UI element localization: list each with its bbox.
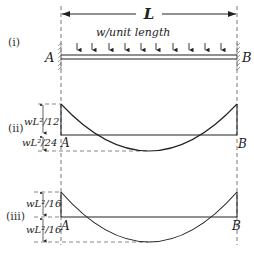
part-iii-moment-diagram: (iii) wL²/16 wL²/16 A B: [6, 192, 241, 242]
part-ii-top-value: wL²/12: [24, 116, 59, 127]
part-ii-a-label: A: [60, 136, 70, 150]
beam-moment-diagram: L (i) w/unit length A B: [0, 0, 254, 257]
span-dimension: L: [62, 5, 236, 23]
support-b-label: B: [241, 50, 252, 65]
part-iii-label: (iii): [6, 210, 25, 223]
right-fixed-support-icon: [237, 43, 240, 70]
support-a-label: A: [44, 50, 54, 65]
part-ii-b-label: B: [237, 137, 247, 151]
part-ii-bottom-value: wL²/24: [22, 137, 57, 148]
part-i-beam: (i) w/unit length A B: [8, 26, 252, 70]
part-iii-bottom-value: wL²/16: [26, 224, 62, 235]
part-iii-top-value: wL²/16: [26, 198, 62, 209]
part-ii-label: (ii): [8, 122, 24, 135]
span-label: L: [143, 5, 155, 23]
load-label: w/unit length: [96, 26, 170, 39]
part-iii-b-label: B: [231, 219, 241, 233]
guide-lines: [61, 6, 237, 245]
distributed-load-arrows: [77, 43, 221, 50]
left-fixed-support-icon: [58, 43, 61, 70]
part-iii-a-label: A: [60, 219, 70, 233]
part-ii-moment-curve: [61, 104, 237, 151]
part-ii-moment-diagram: (ii) wL²/12 wL²/24 A B: [8, 104, 247, 151]
part-i-label: (i): [8, 36, 20, 49]
